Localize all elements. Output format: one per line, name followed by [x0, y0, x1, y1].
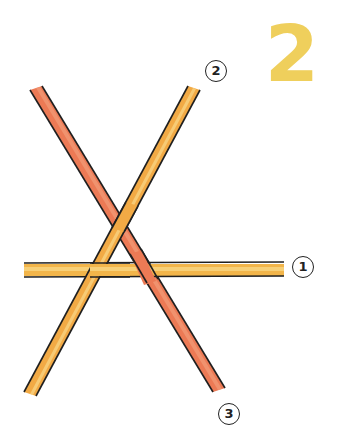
stick-label-1: 1 — [292, 256, 314, 278]
stick-2 — [24, 86, 200, 396]
stick-1 — [24, 262, 284, 277]
stick-1-over-segment — [90, 263, 130, 277]
step-number: 2 — [258, 16, 326, 92]
stick-label-3: 3 — [218, 403, 240, 425]
stick-label-2: 2 — [205, 60, 227, 82]
